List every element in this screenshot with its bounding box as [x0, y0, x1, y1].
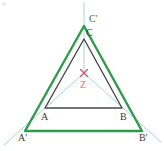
- vertex-label-c-prime: C': [89, 14, 97, 24]
- ray-center-to-a: [4, 73, 84, 145]
- vertex-label-b-prime: B': [139, 133, 147, 143]
- vertex-label-a: A: [41, 112, 48, 122]
- center-label-z: Z: [80, 80, 86, 90]
- geometry-figure: C' C Z A B A' B': [0, 0, 164, 151]
- vertex-label-c: C: [86, 28, 93, 38]
- vertex-label-b: B: [120, 112, 127, 122]
- figure-canvas: [0, 0, 164, 151]
- vertex-label-a-prime: A': [18, 133, 27, 143]
